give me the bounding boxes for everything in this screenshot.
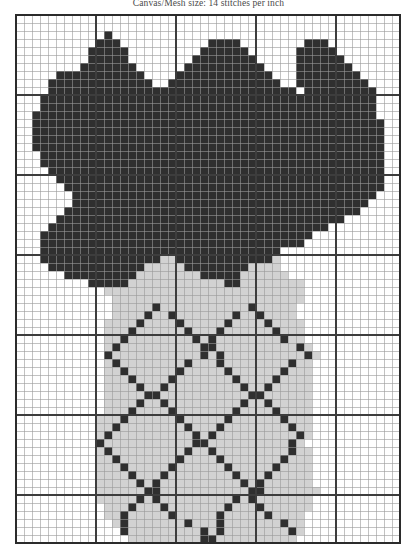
cross-stitch-chart	[15, 14, 401, 544]
pattern-page: Canvas/Mesh size: 14 stitches per inch	[0, 0, 417, 558]
canvas-mesh-size-label: Canvas/Mesh size: 14 stitches per inch	[0, 0, 417, 8]
cross-stitch-chart-container	[15, 14, 401, 544]
